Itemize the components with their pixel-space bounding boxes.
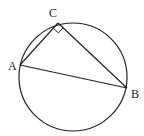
geometry-diagram: A B C <box>0 0 144 136</box>
label-b: B <box>131 87 139 101</box>
segment-ab <box>20 65 127 88</box>
segment-cb <box>58 23 127 88</box>
label-a: A <box>8 59 17 73</box>
segment-ac <box>20 23 58 65</box>
right-angle-marker <box>53 28 63 33</box>
label-c: C <box>49 6 57 20</box>
